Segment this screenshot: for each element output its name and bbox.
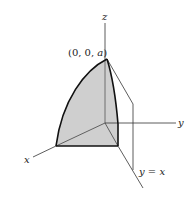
x-axis-label: x bbox=[24, 154, 30, 165]
x-axis bbox=[33, 146, 56, 157]
z-axis-label: z bbox=[101, 11, 108, 22]
solid-region-diagram: z y x (0, 0, a) y = x bbox=[0, 0, 193, 199]
solid-front-face bbox=[56, 59, 118, 146]
apex-label: (0, 0, a) bbox=[68, 47, 107, 58]
plane-label: y = x bbox=[138, 166, 165, 177]
y-axis-label: y bbox=[177, 117, 184, 128]
